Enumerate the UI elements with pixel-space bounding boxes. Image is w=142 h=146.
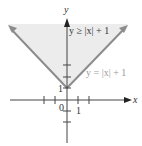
x-tick-label: 1 (76, 105, 81, 116)
origin-label: 0 (59, 102, 64, 113)
x-axis-arrow-icon (124, 97, 132, 103)
y-tick-label: 1 (58, 83, 63, 94)
x-axis-label: x (132, 94, 138, 105)
graph: y x y ≥ |x| + 1 y = |x| + 1 0 1 1 (0, 0, 142, 146)
y-axis-label: y (63, 4, 69, 15)
shaded-region (8, 24, 128, 88)
equation-label: y = |x| + 1 (86, 67, 126, 78)
inequality-label: y ≥ |x| + 1 (69, 25, 109, 36)
